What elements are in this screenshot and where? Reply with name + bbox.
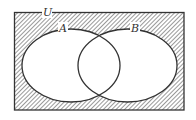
venn-diagram: U A B	[0, 0, 196, 120]
universe-label: U	[43, 6, 53, 19]
set-b-label: B	[130, 22, 139, 35]
set-a-label: A	[58, 22, 67, 35]
